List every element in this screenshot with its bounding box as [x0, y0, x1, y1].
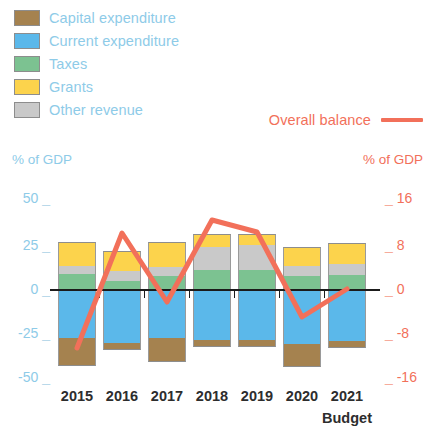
- right-tick-neg16-dash: _: [385, 369, 397, 385]
- x-label-2020: 2020: [279, 388, 325, 404]
- x-label-2015: 2015: [54, 388, 100, 404]
- bar-segment-grants-2021: [328, 243, 366, 264]
- bar-segment-other-revenue-2017: [148, 267, 186, 276]
- x-label-2021: 2021: [324, 388, 370, 404]
- x-axis-note-budget: Budget: [312, 410, 382, 426]
- bar-segment-other-revenue-2015: [58, 266, 96, 274]
- x-axis-labels: 2015 2016 2017 2018 2019 2020 2021: [56, 388, 374, 408]
- left-tick-25-label: 25: [23, 237, 39, 253]
- legend-swatch-other-revenue: [14, 102, 40, 118]
- legend-label-overall-balance: Overall balance: [269, 112, 371, 128]
- bar-segment-capital-expenditure-2018: [193, 340, 231, 347]
- bar-segment-other-revenue-2016: [103, 271, 141, 281]
- bar-segment-grants-2017: [148, 242, 186, 267]
- right-tick-0: _ 0: [385, 281, 429, 297]
- bar-segment-current-expenditure-2021: [328, 290, 366, 341]
- right-tick-neg16-label: -16: [397, 369, 417, 385]
- x-label-2016: 2016: [99, 388, 145, 404]
- x-tickmark-4: [234, 291, 235, 298]
- legend-swatch-current-expenditure: [14, 33, 40, 49]
- bar-segment-other-revenue-2019: [238, 245, 276, 270]
- left-tick-neg25: -25 _: [6, 325, 50, 341]
- right-tick-8-dash: _: [385, 237, 397, 253]
- bar-segment-current-expenditure-2020: [283, 290, 321, 344]
- legend: Capital expenditure Current expenditure …: [14, 6, 179, 121]
- bar-segment-other-revenue-2020: [283, 266, 321, 276]
- legend-label-grants: Grants: [49, 79, 93, 95]
- legend-item-grants: Grants: [14, 75, 179, 98]
- bar-segment-other-revenue-2021: [328, 264, 366, 275]
- bar-segment-taxes-2021: [328, 275, 366, 290]
- x-tickmark-3: [189, 291, 190, 298]
- bar-segment-taxes-2019: [238, 270, 276, 290]
- legend-item-current-expenditure: Current expenditure: [14, 29, 179, 52]
- bar-segment-capital-expenditure-2017: [148, 338, 186, 362]
- left-tick-0: 0 _: [6, 281, 50, 297]
- left-tick-neg50-dash: _: [38, 369, 50, 385]
- bar-segment-grants-2016: [103, 251, 141, 271]
- legend-swatch-grants: [14, 79, 40, 95]
- left-tick-neg50-label: -50: [18, 369, 38, 385]
- bar-segment-grants-2020: [283, 247, 321, 266]
- bar-segment-capital-expenditure-2019: [238, 340, 276, 347]
- bar-segment-grants-2015: [58, 242, 96, 266]
- legend-swatch-capital-expenditure: [14, 10, 40, 26]
- bar-segment-capital-expenditure-2021: [328, 341, 366, 348]
- right-tick-0-dash: _: [385, 281, 397, 297]
- right-tick-neg8-label: -8: [397, 325, 409, 341]
- right-tick-8-label: 8: [397, 237, 405, 253]
- x-label-2018: 2018: [189, 388, 235, 404]
- legend-swatch-taxes: [14, 56, 40, 72]
- bar-segment-grants-2019: [238, 234, 276, 245]
- x-tickmark-1: [99, 291, 100, 298]
- left-axis-title: % of GDP: [12, 152, 72, 167]
- left-tick-25-dash: _: [38, 237, 50, 253]
- right-tick-neg16: _ -16: [385, 369, 429, 385]
- left-tick-0-dash: _: [38, 281, 50, 297]
- legend-label-other-revenue: Other revenue: [49, 102, 143, 118]
- legend-label-capital-expenditure: Capital expenditure: [49, 10, 176, 26]
- figure-canvas: Capital expenditure Current expenditure …: [0, 0, 435, 430]
- right-tick-16: _ 16: [385, 190, 429, 206]
- bar-segment-current-expenditure-2019: [238, 290, 276, 340]
- left-tick-50-label: 50: [23, 190, 39, 206]
- legend-item-capital-expenditure: Capital expenditure: [14, 6, 179, 29]
- plot-area: [56, 192, 374, 384]
- bar-segment-taxes-2018: [193, 270, 231, 290]
- bar-segment-capital-expenditure-2020: [283, 344, 321, 367]
- right-tick-16-label: 16: [397, 190, 413, 206]
- left-tick-50: 50 _: [6, 190, 50, 206]
- right-tick-neg8: _ -8: [385, 325, 429, 341]
- legend-label-taxes: Taxes: [49, 56, 87, 72]
- legend-label-current-expenditure: Current expenditure: [49, 33, 179, 49]
- x-tickmark-5: [279, 291, 280, 298]
- legend-line-overall-balance: [381, 118, 423, 122]
- x-label-2017: 2017: [144, 388, 190, 404]
- left-tick-neg25-dash: _: [38, 325, 50, 341]
- right-tick-0-label: 0: [397, 281, 405, 297]
- bar-segment-current-expenditure-2015: [58, 290, 96, 338]
- bar-segment-taxes-2015: [58, 274, 96, 290]
- right-axis-title: % of GDP: [363, 152, 423, 167]
- bar-segment-current-expenditure-2016: [103, 290, 141, 343]
- bar-segment-taxes-2020: [283, 276, 321, 290]
- left-tick-neg50: -50 _: [6, 369, 50, 385]
- left-tick-50-dash: _: [38, 190, 50, 206]
- bar-segment-grants-2018: [193, 234, 231, 247]
- bar-segment-capital-expenditure-2016: [103, 343, 141, 350]
- bar-segment-other-revenue-2018: [193, 247, 231, 270]
- right-tick-neg8-dash: _: [385, 325, 397, 341]
- x-label-2019: 2019: [234, 388, 280, 404]
- x-tickmark-2: [144, 291, 145, 298]
- left-tick-neg25-label: -25: [18, 325, 38, 341]
- legend-item-taxes: Taxes: [14, 52, 179, 75]
- right-tick-16-dash: _: [385, 190, 397, 206]
- bar-segment-current-expenditure-2018: [193, 290, 231, 340]
- bar-segment-capital-expenditure-2015: [58, 338, 96, 366]
- legend-item-overall-balance: Overall balance: [269, 112, 423, 128]
- legend-item-other-revenue: Other revenue: [14, 98, 179, 121]
- x-tickmark-6: [324, 291, 325, 298]
- right-tick-8: _ 8: [385, 237, 429, 253]
- left-tick-25: 25 _: [6, 237, 50, 253]
- bar-segment-taxes-2017: [148, 276, 186, 290]
